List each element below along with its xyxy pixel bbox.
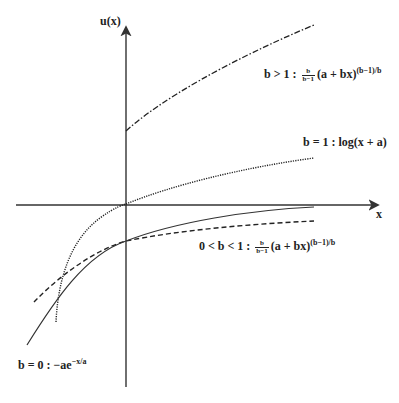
label-b-eq-1: b = 1 : log(x + a) — [303, 135, 387, 150]
label-b-eq-0: b = 0 : −ae−x/a — [18, 357, 86, 373]
curve-b-between — [34, 221, 314, 302]
curve-b-eq-0 — [27, 207, 314, 345]
x-axis-label: x — [376, 207, 382, 222]
label-b-gt-1: b > 1 : bb−1(a + bx)(b−1)/b — [264, 66, 381, 83]
label-b-between: 0 < b < 1 : bb−1(a + bx)(b−1)/b — [199, 238, 335, 255]
y-axis-label: u(x) — [100, 14, 121, 29]
utility-diagram — [0, 0, 399, 403]
